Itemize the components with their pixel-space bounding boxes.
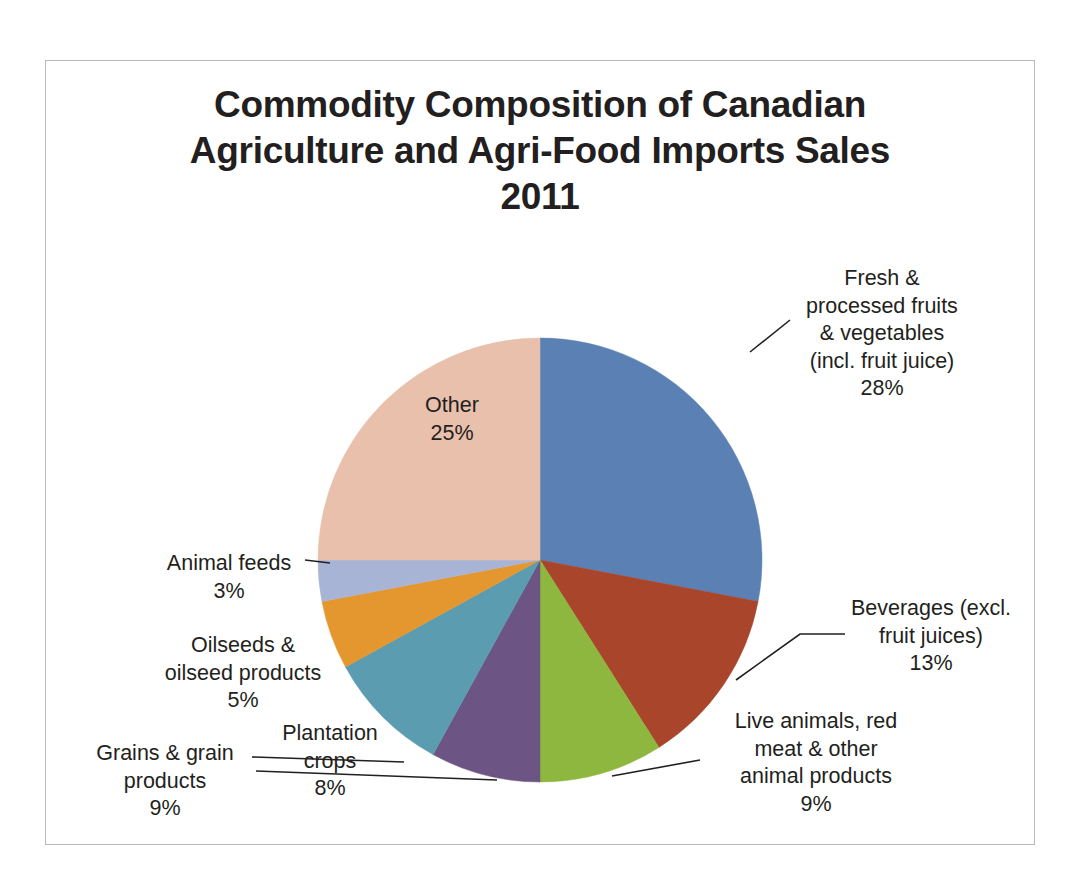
pie-slices-group [318,338,762,782]
slice-label-oilseeds: Oilseeds & oilseed products 5% [145,632,341,715]
pie-slice-fruits[interactable] [540,338,762,602]
pie-slice-other[interactable] [318,338,540,560]
slice-label-live-animals: Live animals, red meat & other animal pr… [700,708,932,818]
slice-label-plantation-crops: Plantation crops 8% [256,720,404,803]
slice-label-animal-feeds: Animal feeds 3% [136,550,322,605]
slice-label-grains: Grains & grain products 9% [72,740,258,823]
slice-label-fruits: Fresh & processed fruits & vegetables (i… [768,265,996,403]
slice-label-other: Other 25% [392,392,512,447]
pie-chart-figure: Commodity Composition of Canadian Agricu… [0,0,1083,891]
slice-label-beverages: Beverages (excl. fruit juices) 13% [820,595,1042,678]
